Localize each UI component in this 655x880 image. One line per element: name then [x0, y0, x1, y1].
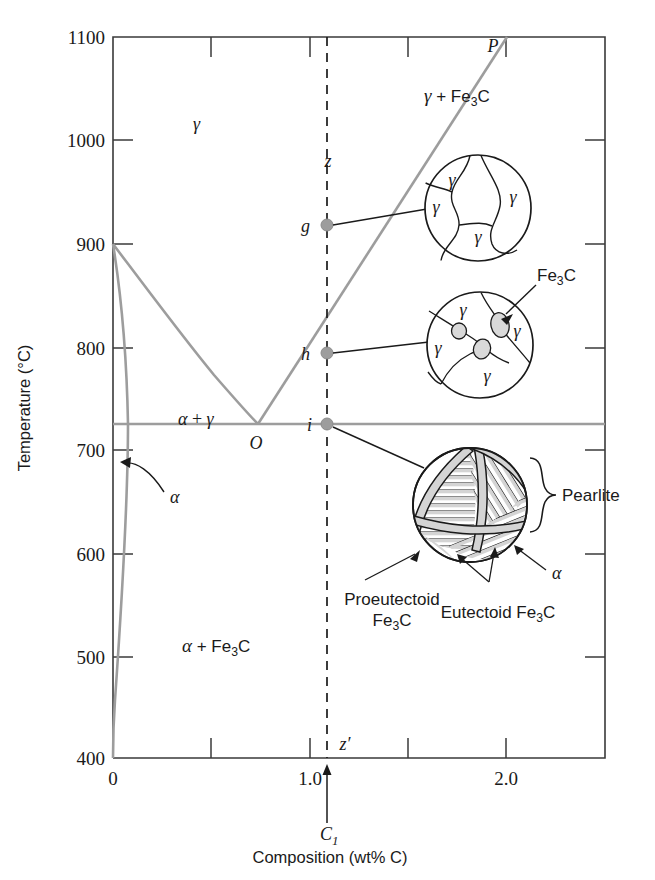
phase-diagram-figure: 1100 1000 900 800 700 600 500 400 0 1.0 … — [0, 0, 655, 880]
y-axis-title: Temperature (°C) — [15, 345, 33, 472]
phase-diagram-svg: 1100 1000 900 800 700 600 500 400 0 1.0 … — [0, 0, 655, 880]
region-label-gamma-fe3c: γ + Fe3C — [424, 85, 490, 109]
point-label-O: O — [250, 433, 263, 453]
austenite-gamma-1: γ — [448, 170, 456, 190]
point-label-z-bottom: z′ — [339, 734, 352, 754]
proeut-gamma-4: γ — [483, 366, 491, 386]
y-label-1100: 1100 — [68, 27, 105, 48]
x-label-0: 0 — [108, 768, 118, 789]
y-label-700: 700 — [77, 440, 106, 461]
point-marker-i — [321, 418, 333, 430]
x-label-2_0: 2.0 — [494, 768, 518, 789]
region-label-gamma: γ — [193, 114, 201, 134]
y-label-1000: 1000 — [67, 130, 105, 151]
y-label-600: 600 — [77, 544, 106, 565]
proeutectoid-label-line1: Proeutectoid — [344, 590, 439, 609]
y-label-500: 500 — [77, 647, 106, 668]
point-label-i: i — [307, 415, 312, 435]
region-label-alpha-gamma: α + γ — [178, 409, 215, 429]
austenite-gamma-3: γ — [432, 197, 440, 217]
proeutectoid-label-line2: Fe3C — [373, 611, 412, 633]
austenite-gamma-2: γ — [509, 187, 517, 207]
point-label-h: h — [301, 344, 310, 364]
point-marker-g — [321, 219, 333, 231]
y-label-400: 400 — [77, 748, 106, 769]
point-marker-h — [321, 347, 333, 359]
proeut-gamma-1: γ — [459, 300, 467, 320]
proeut-gamma-3: γ — [434, 338, 442, 358]
y-label-900: 900 — [77, 234, 106, 255]
fe3c-callout-label: Fe3C — [537, 266, 576, 288]
region-label-alpha-fe3c: α + Fe3C — [182, 635, 250, 659]
point-label-z-top: z — [323, 151, 331, 171]
x-axis-title: Composition (wt% C) — [253, 848, 408, 866]
pearlite-label: Pearlite — [562, 486, 620, 505]
point-label-P: P — [487, 36, 499, 56]
proeut-gamma-2: γ — [513, 321, 521, 341]
austenite-gamma-4: γ — [474, 227, 482, 247]
point-label-g: g — [301, 216, 310, 236]
fe3c-particle-2 — [452, 323, 467, 339]
x-label-1_0: 1.0 — [298, 768, 322, 789]
alpha-leader-label: α — [170, 487, 180, 507]
pearlite-alpha-label: α — [552, 563, 562, 583]
y-label-800: 800 — [77, 338, 106, 359]
